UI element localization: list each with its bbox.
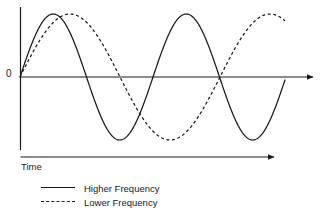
legend-label-lower-frequency: Lower Frequency [84,197,157,208]
legend-solid-line-icon [41,183,75,193]
y-axis-zero-label: 0 [6,69,12,79]
legend-label-higher-frequency: Higher Frequency [84,183,160,194]
legend-dashed-line-icon [41,197,75,207]
frequency-comparison-figure: 0 Time Higher Frequency Lower Frequency [0,0,335,213]
legend: Higher Frequency Lower Frequency [41,181,271,209]
legend-item-lower-frequency: Lower Frequency [41,195,271,209]
legend-item-higher-frequency: Higher Frequency [41,181,271,195]
time-axis-label: Time [21,161,42,172]
